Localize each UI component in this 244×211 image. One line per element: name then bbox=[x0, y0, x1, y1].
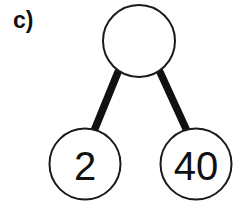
whole-node-circle[interactable] bbox=[103, 5, 175, 77]
part-right-node-value: 40 bbox=[174, 144, 219, 188]
part-label: c) bbox=[13, 7, 33, 33]
connector-whole-to-left-part bbox=[94, 72, 118, 131]
figure-canvas: 2 40 c) bbox=[0, 0, 244, 211]
part-left-node-value: 2 bbox=[74, 144, 96, 188]
number-bond-diagram: 2 40 c) bbox=[0, 0, 244, 211]
connector-whole-to-right-part bbox=[160, 72, 187, 131]
